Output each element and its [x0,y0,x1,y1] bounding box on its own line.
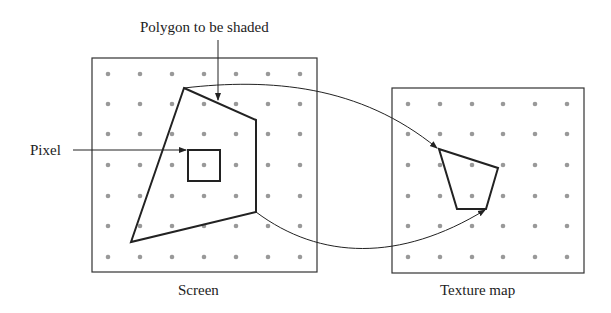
grid-dot [438,132,443,137]
grid-dot [234,255,239,260]
grid-dot [266,132,271,137]
grid-dot [438,194,443,199]
grid-dot [501,224,506,229]
grid-dot [298,224,303,229]
grid-dot [170,132,175,137]
grid-dot [565,224,570,229]
grid-dot [266,224,271,229]
grid-dot [470,163,475,168]
grid-dot [565,255,570,260]
grid-dot [533,102,538,107]
texture-map-label: Texture map [440,282,515,298]
grid-dot [501,102,506,107]
pixel-label: Pixel [30,142,61,158]
grid-dot [501,255,506,260]
grid-dot [234,102,239,107]
diagram-canvas: Polygon to be shaded Pixel Screen Textur… [0,0,611,313]
grid-dot [438,224,443,229]
grid-dot [406,255,411,260]
grid-dot [106,163,111,168]
screen-label: Screen [178,282,219,298]
grid-dot [202,255,207,260]
grid-dot [533,255,538,260]
grid-dot [234,194,239,199]
grid-dot [106,132,111,137]
grid-dot [170,102,175,107]
grid-dot [470,132,475,137]
grid-dot [533,132,538,137]
mapping-arrow-top [184,84,437,148]
grid-dot [533,194,538,199]
grid-dot [106,102,111,107]
grid-dot [170,163,175,168]
grid-dot [266,72,271,77]
grid-dot [406,163,411,168]
grid-dot [438,255,443,260]
grid-dot [202,132,207,137]
diagram-root: Polygon to be shaded Pixel Screen Textur… [0,0,611,313]
grid-dot [501,194,506,199]
grid-dot [138,102,143,107]
grid-dot [501,163,506,168]
grid-dot [266,194,271,199]
grid-dot [234,132,239,137]
grid-dot [501,132,506,137]
grid-dot [470,194,475,199]
grid-dot [234,163,239,168]
grid-dot [470,102,475,107]
grid-dot [138,72,143,77]
grid-dot [266,163,271,168]
grid-dot [234,224,239,229]
grid-dot [406,194,411,199]
grid-dot [202,72,207,77]
grid-dot [438,163,443,168]
grid-dot [234,72,239,77]
grid-dot [565,102,570,107]
grid-dot [406,224,411,229]
grid-dot [565,163,570,168]
grid-dot [106,255,111,260]
grid-dot [298,255,303,260]
grid-dot [298,194,303,199]
grid-dot [406,102,411,107]
grid-dot [138,194,143,199]
grid-dot [266,102,271,107]
grid-dot [298,72,303,77]
texture-dot-grid [406,102,570,260]
grid-dot [138,132,143,137]
grid-dot [565,194,570,199]
grid-dot [170,194,175,199]
grid-dot [565,132,570,137]
grid-dot [298,102,303,107]
grid-dot [298,163,303,168]
grid-dot [106,224,111,229]
grid-dot [298,132,303,137]
grid-dot [533,224,538,229]
grid-dot [106,194,111,199]
grid-dot [438,102,443,107]
mapping-arrow-bottom [256,210,485,249]
grid-dot [202,194,207,199]
grid-dot [202,102,207,107]
texture-map-frame [392,88,584,273]
grid-dot [202,163,207,168]
grid-dot [406,132,411,137]
grid-dot [470,255,475,260]
grid-dot [138,255,143,260]
grid-dot [266,255,271,260]
grid-dot [138,163,143,168]
grid-dot [170,255,175,260]
texture-polygon [439,149,498,209]
grid-dot [170,72,175,77]
grid-dot [533,163,538,168]
grid-dot [170,224,175,229]
grid-dot [470,224,475,229]
polygon-title-label: Polygon to be shaded [140,19,269,35]
grid-dot [138,224,143,229]
grid-dot [106,72,111,77]
